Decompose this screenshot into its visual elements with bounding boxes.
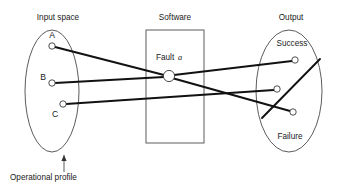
input-space-label: Input space	[37, 13, 80, 22]
software-label: Software	[159, 13, 192, 22]
fault-node-circle	[163, 70, 174, 81]
output-node-out3	[290, 109, 296, 115]
success-region-label: Success	[277, 39, 308, 48]
output-node-out2	[274, 86, 280, 92]
input-node-c	[60, 101, 66, 107]
operational-profile-label: Operational profile	[10, 173, 77, 182]
output-label: Output	[279, 13, 304, 22]
input-node-label-a: A	[49, 30, 55, 40]
failure-region-label: Failure	[277, 132, 302, 141]
input-node-label-c: C	[52, 109, 58, 119]
edge-B-to-fault-a	[55, 77, 164, 83]
input-node-label-b: B	[40, 72, 46, 82]
edge-fault-a-to-out3	[172, 78, 290, 111]
node-group: ABC	[40, 30, 298, 119]
edge-A-to-fault-a	[55, 47, 164, 75]
fault-propagation-diagram: Input space Software Output Success Fail…	[0, 0, 337, 193]
input-node-a	[49, 43, 55, 49]
fault-symbol-label: a	[178, 53, 182, 62]
output-node-out1	[292, 57, 298, 63]
edge-fault-a-to-out1	[174, 61, 292, 75]
input-node-b	[49, 80, 55, 86]
diagram-canvas: Input space Software Output Success Fail…	[0, 0, 337, 193]
operational-profile-arrowhead	[61, 155, 66, 161]
fault-label: Fault	[156, 53, 175, 62]
software-rectangle	[146, 30, 204, 143]
